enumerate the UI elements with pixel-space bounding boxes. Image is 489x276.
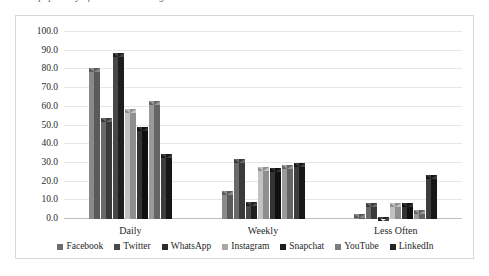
- bar[interactable]: [101, 118, 112, 219]
- y-axis-tick-label: 80.0: [41, 65, 58, 75]
- chart-legend: FacebookTwitterWhatsAppInstagramSnapchat…: [16, 242, 475, 252]
- legend-item[interactable]: Facebook: [57, 242, 103, 252]
- bar[interactable]: [246, 202, 257, 219]
- y-axis-tick-label: 20.0: [41, 177, 58, 187]
- legend-label: YouTube: [344, 242, 379, 252]
- legend-label: Instagram: [231, 242, 269, 252]
- x-axis-category-label: Daily: [64, 222, 197, 240]
- bar[interactable]: [89, 68, 100, 219]
- bar[interactable]: [282, 165, 293, 219]
- bar[interactable]: [402, 203, 413, 219]
- bar-top-bevel: [222, 191, 233, 195]
- bar-top-bevel: [354, 214, 365, 218]
- bar-top-bevel: [390, 203, 401, 207]
- bar-groups: [64, 32, 462, 219]
- clipped-caption: the popularity of social networking site…: [24, 0, 344, 4]
- bar[interactable]: [426, 175, 437, 219]
- bar-face-right: [166, 154, 172, 219]
- bar-face-right: [275, 168, 281, 219]
- bar-face-right: [142, 127, 148, 219]
- bar[interactable]: [378, 217, 389, 219]
- bar[interactable]: [113, 53, 124, 219]
- bar-cluster: [197, 32, 330, 219]
- chart-frame: 100.090.080.070.060.050.040.030.020.010.…: [15, 15, 474, 259]
- bar[interactable]: [390, 203, 401, 219]
- y-axis-tick-label: 60.0: [41, 102, 58, 112]
- legend-item[interactable]: Twitter: [114, 242, 150, 252]
- x-axis-category-label: Weekly: [197, 222, 330, 240]
- bar[interactable]: [137, 127, 148, 219]
- bar-top-bevel: [414, 210, 425, 214]
- bar-face-right: [263, 167, 269, 219]
- y-axis-tick-label: 10.0: [41, 196, 58, 206]
- bar[interactable]: [414, 210, 425, 219]
- chart-figure: the popularity of social networking site…: [0, 0, 489, 276]
- y-axis-tick-label: 100.0: [37, 27, 58, 37]
- bar-top-bevel: [113, 53, 124, 57]
- bar[interactable]: [294, 163, 305, 219]
- legend-swatch-icon: [390, 244, 396, 250]
- bar-face-right: [154, 101, 160, 219]
- bar-top-bevel: [366, 203, 377, 207]
- bar-top-bevel: [149, 101, 160, 105]
- legend-swatch-icon: [57, 244, 63, 250]
- legend-swatch-icon: [280, 244, 286, 250]
- y-axis: 100.090.080.070.060.050.040.030.020.010.…: [16, 32, 62, 219]
- legend-item[interactable]: LinkedIn: [390, 242, 434, 252]
- bar-face-right: [118, 53, 124, 219]
- legend-item[interactable]: WhatsApp: [162, 242, 212, 252]
- legend-item[interactable]: YouTube: [335, 242, 379, 252]
- y-axis-tick-label: 70.0: [41, 83, 58, 93]
- bar-top-bevel: [137, 127, 148, 131]
- legend-label: Twitter: [123, 242, 150, 252]
- bar-face-right: [239, 159, 245, 219]
- bar-top-bevel: [378, 217, 389, 221]
- legend-swatch-icon: [335, 244, 341, 250]
- plot-area: [64, 32, 462, 219]
- bar[interactable]: [270, 168, 281, 219]
- bar[interactable]: [125, 109, 136, 219]
- legend-swatch-icon: [114, 244, 120, 250]
- bar-top-bevel: [282, 165, 293, 169]
- bar-cluster: [64, 32, 197, 219]
- bar-group: [64, 32, 197, 219]
- bar-top-bevel: [426, 175, 437, 179]
- bar-top-bevel: [294, 163, 305, 167]
- bar-top-bevel: [246, 202, 257, 206]
- bar-face-right: [287, 165, 293, 219]
- y-axis-tick-label: 50.0: [41, 121, 58, 131]
- bar[interactable]: [222, 191, 233, 219]
- bar-top-bevel: [161, 154, 172, 158]
- bar[interactable]: [354, 214, 365, 219]
- legend-swatch-icon: [162, 244, 168, 250]
- bar-top-bevel: [258, 167, 269, 171]
- bar-cluster: [329, 32, 462, 219]
- bar[interactable]: [234, 159, 245, 219]
- bar-face-right: [431, 175, 437, 219]
- legend-swatch-icon: [222, 244, 228, 250]
- y-axis-tick-label: 30.0: [41, 158, 58, 168]
- bar[interactable]: [366, 203, 377, 219]
- bar-face-right: [299, 163, 305, 219]
- legend-label: LinkedIn: [399, 242, 434, 252]
- y-axis-tick-label: 40.0: [41, 139, 58, 149]
- legend-label: Facebook: [66, 242, 103, 252]
- bar[interactable]: [161, 154, 172, 219]
- bar-group: [329, 32, 462, 219]
- bar-face-right: [227, 191, 233, 219]
- bar-face-right: [106, 118, 112, 219]
- x-axis-category-labels: DailyWeeklyLess Often: [64, 222, 462, 240]
- bar-top-bevel: [89, 68, 100, 72]
- bar[interactable]: [258, 167, 269, 219]
- bar[interactable]: [149, 101, 160, 219]
- legend-label: WhatsApp: [171, 242, 212, 252]
- legend-item[interactable]: Snapchat: [280, 242, 324, 252]
- bar-top-bevel: [270, 168, 281, 172]
- bar-face-right: [94, 68, 100, 219]
- legend-item[interactable]: Instagram: [222, 242, 269, 252]
- y-axis-tick-label: 0.0: [46, 214, 58, 224]
- y-axis-tick-label: 90.0: [41, 46, 58, 56]
- x-axis-category-label: Less Often: [329, 222, 462, 240]
- bar-top-bevel: [402, 203, 413, 207]
- bar-face-right: [130, 109, 136, 219]
